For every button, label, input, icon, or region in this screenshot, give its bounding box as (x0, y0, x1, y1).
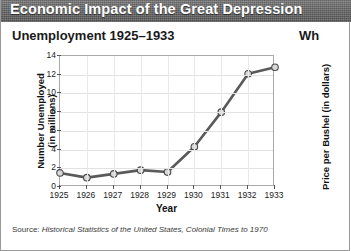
y-tick-label: 6 (42, 125, 56, 135)
x-tick-label: 1928 (130, 190, 149, 200)
x-tick-mark (86, 185, 87, 189)
wheat-price-chart: Wh Price per Bushel (in dollars) (287, 22, 351, 250)
x-axis-ticks: 192519261927192819291930193119321933 (59, 188, 274, 202)
gridline-vertical (141, 56, 142, 185)
gridline-vertical (248, 56, 249, 185)
y-tick-label: 10 (42, 87, 56, 97)
y-tick-mark (57, 74, 61, 75)
y-tick-mark (57, 92, 61, 93)
y-tick-label: 4 (42, 144, 56, 154)
y-tick-mark (57, 149, 61, 150)
gridline-horizontal (60, 150, 273, 151)
y-tick-mark (57, 130, 61, 131)
source-label: Source: (12, 225, 40, 234)
gridline-vertical (221, 56, 222, 185)
x-tick-label: 1932 (238, 190, 257, 200)
gridline-horizontal (60, 112, 273, 113)
gridline-horizontal (60, 75, 273, 76)
data-point-marker (57, 170, 64, 177)
chart-title: Unemployment 1925–1933 (12, 28, 175, 43)
x-axis-title: Year (59, 203, 274, 214)
plot-area (59, 55, 274, 186)
y-tick-label: 12 (42, 69, 56, 79)
y-tick-label: 14 (42, 50, 56, 60)
x-tick-label: 1927 (103, 190, 122, 200)
x-tick-label: 1930 (184, 190, 203, 200)
x-tick-mark (274, 185, 275, 189)
y-tick-mark (57, 55, 61, 56)
source-note: Source: Historical Statistics of the Uni… (12, 225, 268, 234)
gridline-horizontal (60, 93, 273, 94)
x-tick-mark (167, 185, 168, 189)
right-y-axis-title: Price per Bushel (in dollars) (320, 57, 331, 197)
x-tick-label: 1925 (50, 190, 69, 200)
y-tick-mark (57, 111, 61, 112)
y-tick-mark (57, 186, 61, 187)
y-tick-label: 8 (42, 106, 56, 116)
x-tick-mark (193, 185, 194, 189)
source-title: Historical Statistics of the United Stat… (42, 225, 268, 234)
page-header-banner: Economic Impact of the Great Depression (1, 0, 351, 22)
gridline-vertical (194, 56, 195, 185)
y-tick-mark (57, 167, 61, 168)
y-axis-title-container: Number Unemployed (in millions) (14, 55, 38, 186)
x-tick-label: 1931 (211, 190, 230, 200)
x-tick-label: 1929 (157, 190, 176, 200)
x-tick-mark (113, 185, 114, 189)
x-tick-label: 1926 (76, 190, 95, 200)
unemployment-chart: Unemployment 1925–1933 Number Unemployed… (2, 22, 285, 250)
y-tick-label: 2 (42, 162, 56, 172)
x-tick-mark (220, 185, 221, 189)
data-point-marker (272, 64, 279, 71)
gridline-horizontal (60, 168, 273, 169)
gridline-horizontal (60, 131, 273, 132)
gridline-vertical (87, 56, 88, 185)
y-axis-ticks: 02468101214 (40, 55, 56, 186)
page-title: Economic Impact of the Great Depression (10, 1, 302, 17)
x-tick-mark (140, 185, 141, 189)
gridline-vertical (168, 56, 169, 185)
right-y-axis-title-container: Price per Bushel (in dollars) (313, 52, 337, 202)
gridline-vertical (114, 56, 115, 185)
right-chart-title: Wh (299, 28, 319, 43)
x-tick-label: 1933 (265, 190, 284, 200)
x-tick-mark (247, 185, 248, 189)
